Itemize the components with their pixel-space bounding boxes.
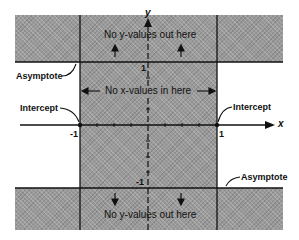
asymptote-left-label: Asymptote bbox=[16, 72, 63, 81]
intercept-point-right bbox=[215, 123, 219, 127]
intercept-right-label: Intercept bbox=[233, 103, 271, 112]
center-strip-label: No x-values in here bbox=[104, 86, 192, 96]
y-axis-label: y bbox=[145, 8, 151, 18]
bottom-band-label: No y-values out here bbox=[104, 210, 196, 220]
intercept-left-label: Intercept bbox=[20, 104, 58, 113]
y-tick-neg-one: -1 bbox=[136, 178, 144, 187]
intercept-point-left bbox=[78, 123, 82, 127]
x-axis-label: x bbox=[278, 119, 284, 129]
intercept-left-leader bbox=[60, 108, 79, 122]
x-axis-arrow-icon bbox=[265, 121, 275, 129]
asymptote-right-label: Asymptote bbox=[241, 173, 288, 182]
top-band-label: No y-values out here bbox=[104, 30, 196, 40]
graph-diagram: y x -1 1 1 -1 No y-values out here No x-… bbox=[0, 0, 299, 240]
x-tick-pos-one: 1 bbox=[219, 130, 224, 139]
intercept-right-leader bbox=[218, 107, 232, 122]
y-axis-arrow-icon bbox=[144, 18, 152, 27]
y-tick-pos-one: 1 bbox=[141, 64, 146, 73]
x-tick-neg-one: -1 bbox=[70, 130, 78, 139]
asymptote-right-leader bbox=[226, 177, 240, 186]
asymptote-left-leader bbox=[62, 64, 76, 76]
